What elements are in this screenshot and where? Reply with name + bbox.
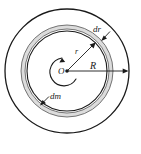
disk-moment-of-inertia-figure: O r R dr dm [0, 0, 141, 154]
inner-radius-label-r: r [75, 48, 78, 56]
ring-mass-label-dm: dm [50, 92, 61, 101]
outer-radius-label-R: R [90, 61, 96, 71]
center-label-O: O [58, 67, 65, 76]
ring-thickness-label-dr: dr [93, 25, 101, 34]
figure-canvas [0, 0, 141, 154]
R-leader-arrowhead-icon [123, 68, 129, 73]
center-point-marker [65, 69, 69, 73]
